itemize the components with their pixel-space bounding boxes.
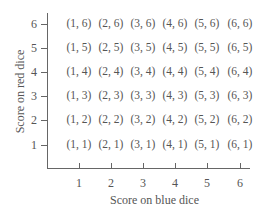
outcome-cell: (3, 2) bbox=[131, 113, 156, 125]
outcome-cell: (4, 2) bbox=[163, 113, 188, 125]
x-tick-label: 4 bbox=[169, 176, 181, 191]
y-tick-label: 2 bbox=[25, 113, 37, 128]
x-tick-label: 3 bbox=[137, 176, 149, 191]
x-tick bbox=[207, 163, 208, 168]
outcome-cell: (6, 2) bbox=[228, 113, 253, 125]
outcome-cell: (2, 4) bbox=[99, 65, 124, 77]
x-tick bbox=[79, 163, 80, 168]
y-tick-label: 6 bbox=[25, 17, 37, 32]
x-tick bbox=[240, 163, 241, 168]
outcome-cell: (2, 1) bbox=[99, 138, 124, 150]
outcome-cell: (3, 3) bbox=[131, 89, 156, 101]
x-tick-label: 6 bbox=[234, 176, 246, 191]
outcome-cell: (1, 1) bbox=[67, 138, 92, 150]
outcome-cell: (2, 5) bbox=[99, 41, 124, 53]
y-tick bbox=[41, 120, 47, 121]
y-tick-label: 1 bbox=[25, 138, 37, 153]
y-tick-label: 5 bbox=[25, 41, 37, 56]
x-tick-label: 2 bbox=[105, 176, 117, 191]
y-tick-label: 3 bbox=[25, 89, 37, 104]
outcome-cell: (5, 5) bbox=[195, 41, 220, 53]
outcome-cell: (4, 1) bbox=[163, 138, 188, 150]
outcome-cell: (5, 4) bbox=[195, 65, 220, 77]
outcome-cell: (1, 5) bbox=[67, 41, 92, 53]
y-axis-line bbox=[47, 13, 48, 168]
outcome-cell: (2, 3) bbox=[99, 89, 124, 101]
outcome-cell: (3, 4) bbox=[131, 65, 156, 77]
y-tick bbox=[41, 48, 47, 49]
x-tick bbox=[143, 163, 144, 168]
x-tick-label: 5 bbox=[201, 176, 213, 191]
y-tick-label: 4 bbox=[25, 65, 37, 80]
outcome-cell: (5, 6) bbox=[195, 17, 220, 29]
outcome-cell: (1, 6) bbox=[67, 17, 92, 29]
outcome-cell: (3, 6) bbox=[131, 17, 156, 29]
y-tick bbox=[41, 96, 47, 97]
x-tick-label: 1 bbox=[73, 176, 85, 191]
y-tick bbox=[41, 24, 47, 25]
outcome-cell: (1, 3) bbox=[67, 89, 92, 101]
outcome-cell: (4, 5) bbox=[163, 41, 188, 53]
outcome-cell: (4, 6) bbox=[163, 17, 188, 29]
outcome-cell: (6, 4) bbox=[228, 65, 253, 77]
outcome-cell: (3, 1) bbox=[131, 138, 156, 150]
outcome-cell: (6, 6) bbox=[228, 17, 253, 29]
outcome-cell: (5, 1) bbox=[195, 138, 220, 150]
outcome-cell: (5, 3) bbox=[195, 89, 220, 101]
outcome-cell: (3, 5) bbox=[131, 41, 156, 53]
outcome-cell: (5, 2) bbox=[195, 113, 220, 125]
x-tick bbox=[175, 163, 176, 168]
outcome-cell: (2, 2) bbox=[99, 113, 124, 125]
x-tick bbox=[111, 163, 112, 168]
outcome-cell: (4, 4) bbox=[163, 65, 188, 77]
outcome-cell: (4, 3) bbox=[163, 89, 188, 101]
y-tick bbox=[41, 72, 47, 73]
outcome-cell: (6, 5) bbox=[228, 41, 253, 53]
x-axis-line bbox=[47, 168, 250, 169]
outcome-cell: (6, 3) bbox=[228, 89, 253, 101]
outcome-cell: (6, 1) bbox=[228, 138, 253, 150]
outcome-cell: (1, 4) bbox=[67, 65, 92, 77]
x-axis-title: Score on blue dice bbox=[0, 193, 261, 208]
y-tick bbox=[41, 145, 47, 146]
outcome-cell: (1, 2) bbox=[67, 113, 92, 125]
outcome-cell: (2, 6) bbox=[99, 17, 124, 29]
